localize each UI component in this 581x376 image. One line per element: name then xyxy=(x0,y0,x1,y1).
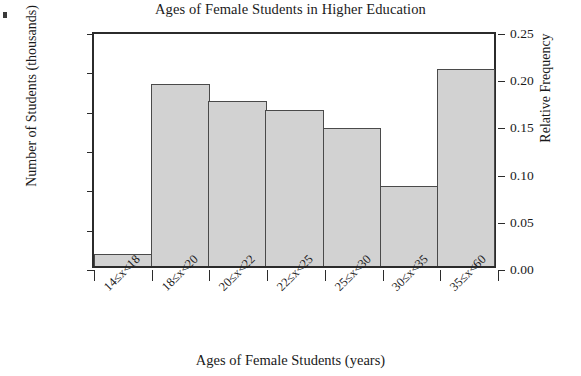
plot-area: 050010001500200025003000 0.000.050.100.1… xyxy=(92,32,496,268)
histogram-figure: Ages of Female Students in Higher Educat… xyxy=(0,0,581,376)
x-tick-mark xyxy=(440,270,441,281)
y-right-tick-label: 0.10 xyxy=(510,168,570,184)
y-right-tick-label: 0.20 xyxy=(510,73,570,89)
bar-2 xyxy=(151,84,209,267)
y-right-tick-label: 0.25 xyxy=(510,26,570,42)
bar-4 xyxy=(265,110,323,266)
x-tick-mark xyxy=(383,270,384,281)
y-left-tick-mark xyxy=(87,113,94,114)
y-axis-left-title: Number of Students (thousands) xyxy=(24,0,40,226)
y-right-tick-mark xyxy=(498,128,505,129)
x-tick-mark xyxy=(94,270,95,281)
chart-title: Ages of Female Students in Higher Educat… xyxy=(0,1,581,18)
bar-3 xyxy=(208,101,266,266)
y-left-tick-mark xyxy=(87,191,94,192)
y-right-tick-mark xyxy=(498,223,505,224)
x-axis-title: Ages of Female Students (years) xyxy=(0,352,581,369)
y-left-tick-mark xyxy=(87,270,94,271)
x-tick-mark xyxy=(325,270,326,281)
bar-6 xyxy=(380,186,438,266)
y-right-tick-mark xyxy=(498,34,505,35)
y-left-tick-mark xyxy=(87,73,94,74)
y-left-tick-mark xyxy=(87,231,94,232)
x-tick-mark xyxy=(498,270,499,281)
bar-5 xyxy=(323,128,381,266)
y-right-tick-mark xyxy=(498,81,505,82)
x-tick-mark xyxy=(209,270,210,281)
y-right-tick-mark xyxy=(498,270,505,271)
x-tick-mark xyxy=(267,270,268,281)
y-right-tick-label: 0.15 xyxy=(510,120,570,136)
y-right-tick-label: 0.05 xyxy=(510,215,570,231)
y-right-tick-mark xyxy=(498,176,505,177)
y-left-tick-mark xyxy=(87,34,94,35)
bar-series xyxy=(94,34,494,266)
bar-7 xyxy=(437,69,495,266)
y-right-tick-label: 0.00 xyxy=(510,262,570,278)
y-left-tick-mark xyxy=(87,152,94,153)
x-tick-mark xyxy=(152,270,153,281)
